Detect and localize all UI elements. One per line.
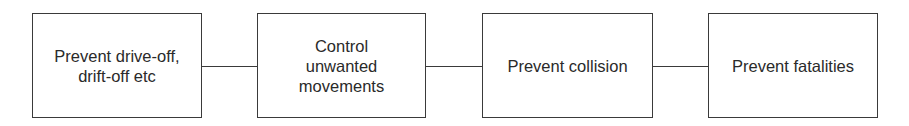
connector-1-2 <box>202 66 257 67</box>
node-label: Prevent fatalities <box>732 56 854 76</box>
connector-3-4 <box>653 66 708 67</box>
node-prevent-fatalities: Prevent fatalities <box>708 13 878 118</box>
node-prevent-collision: Prevent collision <box>482 13 653 118</box>
node-prevent-drive-off: Prevent drive-off, drift-off etc <box>32 13 202 118</box>
node-label: Prevent drive-off, drift-off etc <box>42 46 192 86</box>
node-label: Prevent collision <box>507 56 627 76</box>
connector-2-3 <box>426 66 482 67</box>
node-label: Control unwanted movements <box>292 36 392 96</box>
node-control-unwanted-movements: Control unwanted movements <box>257 13 426 118</box>
